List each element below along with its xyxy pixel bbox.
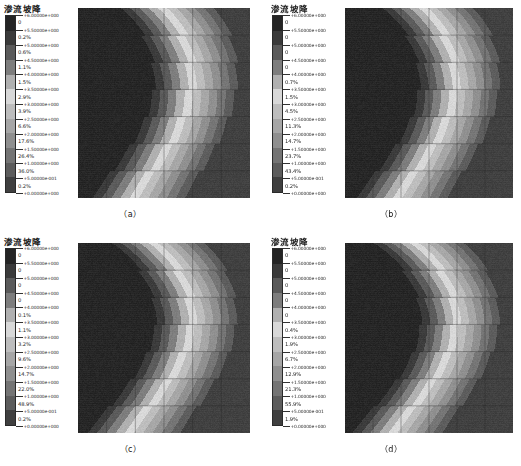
- tick-value-label: +0.00000e+000: [24, 191, 59, 196]
- tick-mark-icon: [16, 74, 23, 75]
- tick-value-label: +5.00000e+000: [24, 275, 59, 280]
- band-percent-label: 6.6%: [18, 123, 31, 129]
- band-percent-label: 0: [285, 34, 288, 40]
- tick-value-label: +1.00000e+000: [24, 161, 59, 166]
- tick-mark-icon: [283, 322, 290, 323]
- scale-tick: +3.50000e+000: [16, 322, 59, 323]
- colorbar-band: [6, 16, 15, 31]
- band-percent-label: 3.9%: [18, 108, 31, 114]
- band-percent-label: 0: [285, 282, 288, 288]
- colorbar-band: [273, 249, 282, 264]
- colorbar-band: [6, 264, 15, 279]
- colorbar-band: [273, 264, 282, 279]
- tick-value-label: +4.50000e+000: [291, 290, 326, 295]
- tick-mark-icon: [16, 396, 23, 397]
- scale-tick: +1.00000e+000: [283, 396, 326, 397]
- colorbar-band: [273, 177, 282, 192]
- tick-value-label: +6.00000e+000: [291, 246, 326, 251]
- colorbar-band: [273, 31, 282, 46]
- scale-tick: +4.50000e+000: [16, 293, 59, 294]
- tick-value-label: +5.50000e+000: [24, 27, 59, 32]
- band-percent-label: 1.9%: [285, 341, 298, 347]
- scale-tick: +6.00000e+000: [283, 248, 326, 249]
- tick-value-label: +0.00000e+000: [24, 424, 59, 429]
- tick-value-label: +3.50000e+000: [291, 87, 326, 92]
- scale-tick: +1.50000e+000: [283, 382, 326, 383]
- tick-mark-icon: [16, 15, 23, 16]
- legend-c: 渗流坡降 +6.00000e+000+5.50000e+000+5.00000e…: [2, 237, 74, 426]
- tick-value-label: +5.00000e-001: [291, 409, 324, 414]
- colorbar-band: [273, 104, 282, 119]
- tick-value-label: +4.00000e+000: [24, 305, 59, 310]
- scale-tick: +2.00000e+000: [16, 367, 59, 368]
- tick-mark-icon: [283, 89, 290, 90]
- scale-tick: +0.00000e+000: [283, 193, 326, 194]
- tick-mark-icon: [283, 134, 290, 135]
- scale-tick: +2.50000e+000: [16, 119, 59, 120]
- tick-mark-icon: [283, 74, 290, 75]
- band-percent-label: 14.7%: [18, 371, 34, 377]
- tick-mark-icon: [283, 104, 290, 105]
- scale-tick: +1.50000e+000: [283, 149, 326, 150]
- tick-value-label: +4.00000e+000: [24, 72, 59, 77]
- band-percent-label: 17.6%: [18, 138, 34, 144]
- tick-mark-icon: [283, 248, 290, 249]
- scale-tick: +4.00000e+000: [283, 307, 326, 308]
- colorbar-band: [6, 133, 15, 148]
- band-percent-label: 0.2%: [18, 183, 31, 189]
- tick-mark-icon: [283, 352, 290, 353]
- tick-value-label: +6.00000e+000: [24, 13, 59, 18]
- tick-value-label: +5.50000e+000: [24, 260, 59, 265]
- colorbar-band: [273, 45, 282, 60]
- tick-value-label: +1.50000e+000: [291, 379, 326, 384]
- scale-tick: +2.50000e+000: [283, 119, 326, 120]
- tick-mark-icon: [16, 119, 23, 120]
- tick-mark-icon: [16, 193, 23, 194]
- scale-tick: +5.00000e-001: [16, 178, 57, 179]
- tick-value-label: +5.00000e-001: [24, 409, 57, 414]
- tick-mark-icon: [16, 163, 23, 164]
- band-percent-label: 0: [285, 267, 288, 273]
- tick-value-label: +3.00000e+000: [24, 102, 59, 107]
- colorbar-band: [6, 75, 15, 90]
- band-percent-label: 0: [285, 49, 288, 55]
- tick-mark-icon: [16, 337, 23, 338]
- colorbar-band: [273, 75, 282, 90]
- caption-b: （b）: [261, 208, 521, 219]
- tick-value-label: +4.00000e+000: [291, 72, 326, 77]
- colorbar-c: [5, 248, 16, 426]
- band-percent-label: 21.3%: [285, 386, 301, 392]
- tick-value-label: +6.00000e+000: [24, 246, 59, 251]
- contour-plot-b: [345, 8, 513, 198]
- tick-mark-icon: [283, 396, 290, 397]
- scale-tick: +5.00000e+000: [283, 278, 326, 279]
- tick-mark-icon: [16, 134, 23, 135]
- band-percent-label: 14.7%: [285, 138, 301, 144]
- tick-mark-icon: [16, 178, 23, 179]
- tick-mark-icon: [16, 352, 23, 353]
- tick-value-label: +0.00000e+000: [291, 191, 326, 196]
- scale-tick: +4.50000e+000: [283, 293, 326, 294]
- tick-value-label: +0.00000e+000: [291, 424, 326, 429]
- colorbar-band: [273, 337, 282, 352]
- tick-value-label: +2.50000e+000: [24, 116, 59, 121]
- tick-value-label: +2.00000e+000: [291, 364, 326, 369]
- legend-b: 渗流坡降 +6.00000e+000+5.50000e+000+5.00000e…: [269, 4, 341, 193]
- scale-tick: +0.00000e+000: [16, 426, 59, 427]
- band-percent-label: 0.7%: [285, 79, 298, 85]
- tick-value-label: +2.50000e+000: [291, 349, 326, 354]
- tick-value-label: +2.50000e+000: [291, 116, 326, 121]
- band-percent-label: 0: [18, 19, 21, 25]
- scale-tick: +4.50000e+000: [283, 60, 326, 61]
- tick-mark-icon: [16, 411, 23, 412]
- tick-value-label: +3.00000e+000: [24, 335, 59, 340]
- tick-value-label: +2.50000e+000: [24, 349, 59, 354]
- scale-tick: +5.00000e-001: [283, 411, 324, 412]
- tick-mark-icon: [16, 263, 23, 264]
- tick-mark-icon: [283, 382, 290, 383]
- scale-tick: +4.00000e+000: [283, 74, 326, 75]
- colorbar-band: [6, 89, 15, 104]
- tick-mark-icon: [16, 293, 23, 294]
- scale-tick: +2.50000e+000: [283, 352, 326, 353]
- colorbar-band: [6, 278, 15, 293]
